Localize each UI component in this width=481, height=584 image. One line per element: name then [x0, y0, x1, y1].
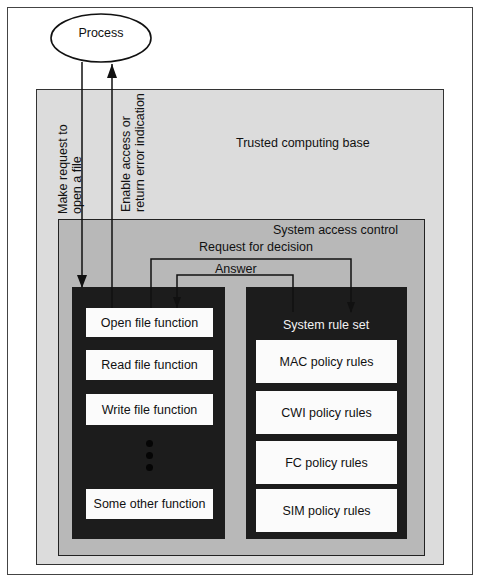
- arrow-up-icon: [107, 64, 117, 78]
- arrow-down-icon: [173, 297, 181, 308]
- make-request-label: Make request to open a file: [56, 124, 84, 214]
- make-request-line1: Make request to: [56, 124, 70, 214]
- enable-access-label: Enable access or return error indication: [119, 93, 147, 212]
- enable-access-line1: Enable access or: [119, 93, 133, 212]
- request-for-decision-arrow: [151, 259, 351, 312]
- enable-access-line2: return error indication: [133, 93, 147, 212]
- connector-lines: [0, 0, 481, 584]
- answer-arrow: [177, 275, 293, 312]
- process-label: Process: [76, 26, 126, 40]
- arrow-down-icon: [347, 302, 355, 313]
- make-request-line2: open a file: [70, 124, 84, 214]
- arrow-down-icon: [77, 275, 87, 288]
